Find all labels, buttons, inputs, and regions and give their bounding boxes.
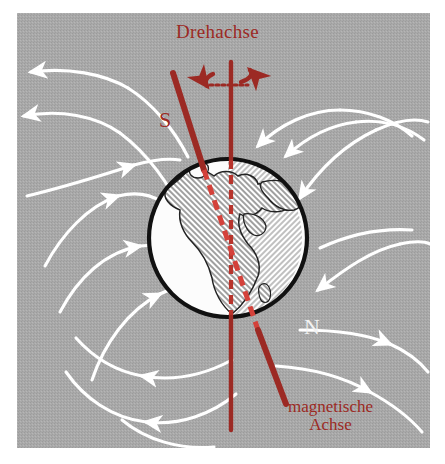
label-south-pole: S bbox=[159, 108, 171, 131]
label-magnetic-axis: magnetische Achse bbox=[288, 398, 373, 434]
label-rotation-axis: Drehachse bbox=[176, 22, 259, 42]
earth-magnetic-field-diagram bbox=[0, 0, 445, 464]
continent-madagascar bbox=[259, 284, 271, 303]
label-magnetic-axis-line2: Achse bbox=[288, 416, 373, 434]
label-magnetic-axis-line1: magnetische bbox=[288, 397, 373, 416]
magnetic-field-figure: Drehachse S N magnetische Achse bbox=[0, 0, 445, 464]
label-north-pole: N bbox=[304, 315, 320, 338]
